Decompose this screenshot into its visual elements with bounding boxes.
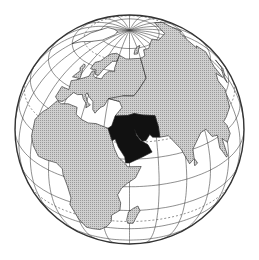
globe-map [0,0,259,260]
